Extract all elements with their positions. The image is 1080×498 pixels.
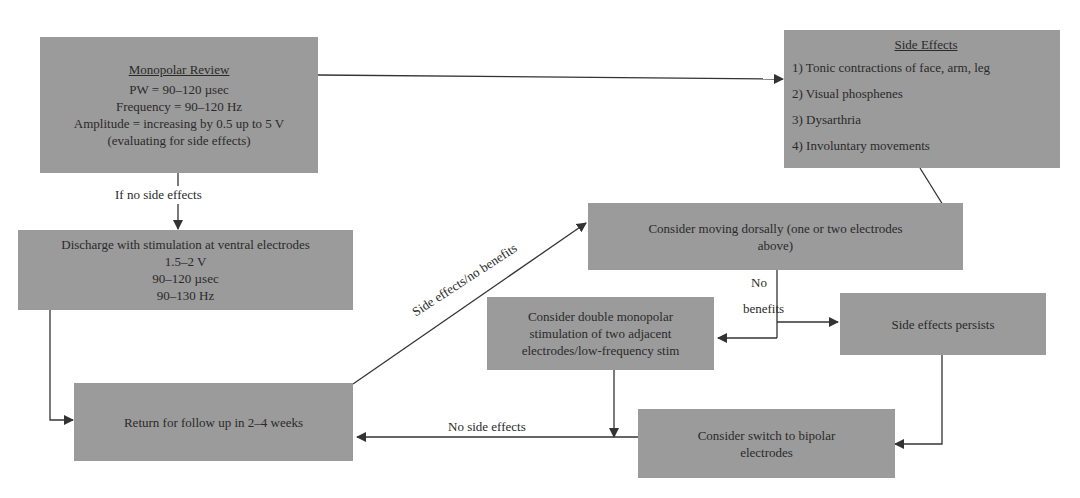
side-effect-item: 4) Involuntary movements <box>792 133 930 159</box>
label-no: No <box>751 274 767 291</box>
switch-bipolar-line: electrodes <box>740 444 793 461</box>
double-monopolar-line: stimulation of two adjacent <box>530 325 672 342</box>
side-effects-title: Side Effects <box>895 36 958 53</box>
monopolar-review-line: Frequency = 90–120 Hz <box>116 98 242 115</box>
side-effect-item: 2) Visual phosphenes <box>792 81 903 107</box>
discharge-line: 90–120 µsec <box>152 270 218 287</box>
monopolar-review-line: PW = 90–120 µsec <box>129 81 228 98</box>
discharge-line: 90–130 Hz <box>157 287 214 304</box>
label-if-no-side-effects: If no side effects <box>115 186 202 203</box>
discharge-title: Discharge with stimulation at ventral el… <box>61 236 310 253</box>
return-followup-text: Return for follow up in 2–4 weeks <box>124 414 303 431</box>
side-effects-persists-text: Side effects persists <box>891 316 994 333</box>
moving-dorsally-line: Consider moving dorsally (one or two ele… <box>648 220 902 237</box>
discharge-line: 1.5–2 V <box>165 253 207 270</box>
switch-bipolar-line: Consider switch to bipolar <box>698 427 836 444</box>
edge-monopolar-to-side-effects <box>318 75 783 79</box>
edge-discharge-to-return <box>50 310 73 420</box>
edge-persists-to-bipolar <box>895 355 942 444</box>
return-followup-box: Return for follow up in 2–4 weeks <box>74 383 353 461</box>
moving-dorsally-box: Consider moving dorsally (one or two ele… <box>588 203 963 270</box>
discharge-box: Discharge with stimulation at ventral el… <box>18 230 353 310</box>
monopolar-review-box: Monopolar Review PW = 90–120 µsec Freque… <box>40 37 318 173</box>
double-monopolar-line: Consider double monopolar <box>528 308 673 325</box>
monopolar-review-line: (evaluating for side effects) <box>107 132 250 149</box>
label-benefits: benefits <box>743 300 784 317</box>
monopolar-review-title: Monopolar Review <box>129 61 230 78</box>
side-effect-item: 3) Dysarthria <box>792 107 861 133</box>
moving-dorsally-line: above) <box>758 237 793 254</box>
side-effects-persists-box: Side effects persists <box>840 293 1046 355</box>
side-effect-item: 1) Tonic contractions of face, arm, leg <box>792 55 990 81</box>
label-no-side-effects: No side effects <box>448 418 526 435</box>
edge-side-effects-to-dorsal <box>920 168 943 205</box>
double-monopolar-box: Consider double monopolar stimulation of… <box>487 297 714 370</box>
switch-bipolar-box: Consider switch to bipolar electrodes <box>638 409 895 478</box>
side-effects-box: Side Effects 1) Tonic contractions of fa… <box>784 30 1060 168</box>
double-monopolar-line: electrodes/low-frequency stim <box>522 342 680 359</box>
monopolar-review-line: Amplitude = increasing by 0.5 up to 5 V <box>74 115 284 132</box>
